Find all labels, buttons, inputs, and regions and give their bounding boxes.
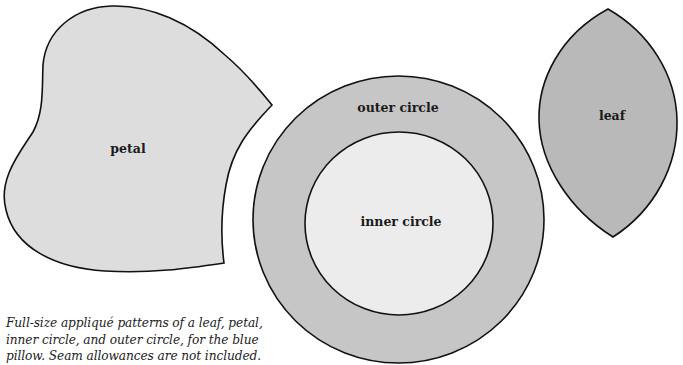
caption-line-1: Full-size appliqué patterns of a leaf, p… — [6, 315, 306, 332]
leaf-shape — [539, 9, 677, 237]
leaf-label: leaf — [599, 108, 627, 123]
caption-line-3: pillow. Seam allowances are not included… — [6, 348, 306, 365]
figure-caption: Full-size appliqué patterns of a leaf, p… — [6, 315, 306, 365]
outer-circle-label: outer circle — [357, 100, 438, 115]
petal-shape — [4, 6, 272, 272]
petal-label: petal — [110, 141, 146, 156]
petal-shape-group: petal — [4, 6, 272, 272]
caption-line-2: inner circle, and outer circle, for the … — [6, 332, 306, 349]
inner-circle-label: inner circle — [360, 214, 441, 229]
inner-circle-group: inner circle — [305, 132, 493, 315]
leaf-group: leaf — [539, 9, 677, 237]
pattern-diagram: petal outer circle inner circle leaf — [0, 0, 683, 365]
